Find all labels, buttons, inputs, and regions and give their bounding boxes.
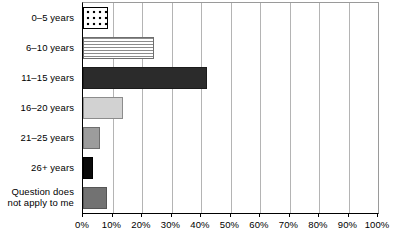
bar-row — [83, 157, 378, 179]
bar-row — [83, 127, 378, 149]
bar-row — [83, 67, 378, 89]
x-axis-tick-mark — [318, 213, 319, 217]
category-label: 6–10 years — [0, 42, 74, 53]
x-axis-tick-mark — [82, 213, 83, 217]
x-axis-tick-mark — [259, 213, 260, 217]
bar-row — [83, 187, 378, 209]
category-label: 16–20 years — [0, 102, 74, 113]
x-axis-tick-mark — [141, 213, 142, 217]
x-axis-tick-mark — [112, 213, 113, 217]
horizontal-bar-chart: 0–5 years6–10 years11–15 years16–20 year… — [0, 0, 395, 244]
category-label-line: not apply to me — [0, 197, 74, 208]
x-axis-tick-mark — [200, 213, 201, 217]
bar — [83, 37, 154, 59]
bar — [83, 127, 100, 149]
category-label-line: 16–20 years — [0, 102, 74, 113]
bar-row — [83, 97, 378, 119]
category-label-line: 21–25 years — [0, 132, 74, 143]
bar — [83, 97, 123, 119]
bar — [83, 67, 207, 89]
category-label-column: 0–5 years6–10 years11–15 years16–20 year… — [0, 2, 78, 212]
x-axis-tick-mark — [348, 213, 349, 217]
bar-row — [83, 37, 378, 59]
bar-row — [83, 7, 378, 29]
category-label-line: 0–5 years — [0, 12, 74, 23]
bar — [83, 7, 108, 29]
bar — [83, 157, 93, 179]
plot-area — [82, 2, 379, 214]
category-label: 21–25 years — [0, 132, 74, 143]
x-axis-tick-mark — [289, 213, 290, 217]
category-label-line: 11–15 years — [0, 72, 74, 83]
category-label-line: 26+ years — [0, 162, 74, 173]
category-label: Question doesnot apply to me — [0, 186, 74, 208]
category-label: 26+ years — [0, 162, 74, 173]
x-axis-tick-mark — [377, 213, 378, 217]
x-axis-tick-mark — [171, 213, 172, 217]
x-axis-tick-label: 100% — [357, 219, 395, 230]
category-label: 0–5 years — [0, 12, 74, 23]
category-label-line: Question does — [0, 186, 74, 197]
x-axis-tick-mark — [230, 213, 231, 217]
category-label-line: 6–10 years — [0, 42, 74, 53]
bar — [83, 187, 107, 209]
category-label: 11–15 years — [0, 72, 74, 83]
